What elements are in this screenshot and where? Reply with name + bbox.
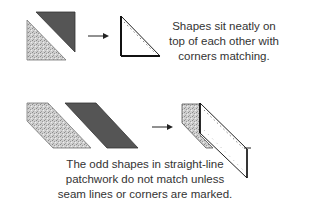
top-caption: Shapes sit neatly on top of each other w…: [168, 19, 280, 64]
arrow-right-icon: [88, 33, 109, 39]
caption-line: patchwork do not match unless: [30, 172, 260, 187]
top-example: [27, 12, 160, 60]
bottom-caption: The odd shapes in straight-line patchwor…: [30, 157, 260, 202]
arrow-right-icon: [152, 124, 173, 130]
caption-line: seam lines or corners are marked.: [30, 187, 260, 202]
stacked-triangle-result: [121, 16, 160, 56]
caption-line: The odd shapes in straight-line: [30, 157, 260, 172]
caption-line: corners matching.: [168, 49, 280, 64]
caption-line: Shapes sit neatly on: [168, 19, 280, 34]
caption-line: top of each other with: [168, 34, 280, 49]
